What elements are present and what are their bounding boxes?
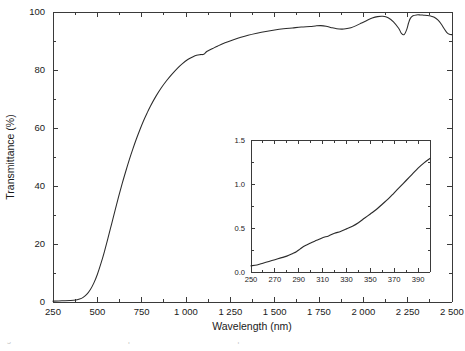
y-ticklabel: 100 xyxy=(29,6,45,17)
figure-root: 2505007501 0001 2501 5001 7502 0002 2502… xyxy=(0,0,465,351)
x-ticklabel: 1 000 xyxy=(174,306,198,317)
y-ticklabel: 0 xyxy=(40,296,45,307)
figure-caption-clipped: Fig. 5.5 UV-VIS-NIR transmittance spectr… xyxy=(0,342,465,351)
inset-chart: 250270290310330350370390 0.00.51.01.5 xyxy=(221,130,440,290)
inset-x-ticklabel: 270 xyxy=(269,275,282,284)
y-ticklabel: 20 xyxy=(34,238,45,249)
inset-y-ticklabel: 0.0 xyxy=(234,268,245,277)
x-axis-title: Wavelength (nm) xyxy=(212,320,292,332)
x-ticklabel: 2 000 xyxy=(351,306,375,317)
x-ticklabel: 500 xyxy=(89,306,105,317)
figure-caption-text: Fig. 5.5 UV-VIS-NIR transmittance spectr… xyxy=(0,342,248,344)
y-axis-title: Transmittance (%) xyxy=(4,114,16,199)
inset-x-ticklabel: 250 xyxy=(245,275,258,284)
x-ticklabel: 2 250 xyxy=(396,306,420,317)
inset-y-ticklabel: 1.5 xyxy=(234,136,245,145)
inset-x-ticklabel: 330 xyxy=(340,275,353,284)
inset-x-ticklabel: 370 xyxy=(388,275,401,284)
y-ticklabel: 60 xyxy=(34,122,45,133)
x-ticklabel: 750 xyxy=(134,306,150,317)
inset-x-ticklabel: 350 xyxy=(364,275,377,284)
x-ticklabel: 2 500 xyxy=(440,306,464,317)
x-ticklabel: 1 250 xyxy=(218,306,242,317)
inset-x-ticklabel: 390 xyxy=(412,275,425,284)
y-ticklabel: 80 xyxy=(34,64,45,75)
inset-y-ticklabel: 1.0 xyxy=(234,180,245,189)
inset-x-ticklabel: 310 xyxy=(316,275,329,284)
transmittance-spectrum-chart: 2505007501 0001 2501 5001 7502 0002 2502… xyxy=(0,0,465,351)
x-ticklabel: 250 xyxy=(45,306,61,317)
inset-x-ticklabel: 290 xyxy=(292,275,305,284)
y-ticklabel: 40 xyxy=(34,180,45,191)
x-ticklabel: 1 750 xyxy=(307,306,331,317)
inset-y-ticklabel: 0.5 xyxy=(234,224,245,233)
x-ticklabel: 1 500 xyxy=(263,306,287,317)
